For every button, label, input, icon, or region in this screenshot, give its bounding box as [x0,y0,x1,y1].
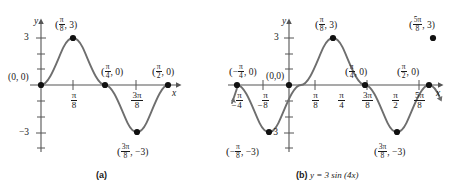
panel-a-point-origin [38,82,44,88]
panel-a-label-point-zero-pi4: (π4, 0) [101,63,123,79]
panel-b-point-min-3pi8 [394,129,400,135]
panel-b-label-point-origin: (0,0) [266,72,284,82]
panel-b-xtick-neg-pi-over-8: −π8 [254,91,272,110]
panel-b-xtick-pi-over-8: π8 [308,91,323,110]
panel-a-point-zero-pi2 [165,82,171,88]
panel-a-point-min [134,129,140,135]
panel-a-y-axis-label: y [34,17,38,27]
panel-b-ytick-3: 3 [274,33,279,43]
panel-b-caption: (b) y = 3 sin (4x) [296,170,359,180]
panel-a-xtick-3pi-over-8: 3π8 [127,91,147,110]
panel-b-label-point-zero-neg-pi4: (−π4, 0) [229,63,257,79]
panel-b-xtick-3pi-over-8: 3π8 [358,91,377,110]
panel-a-ytick-neg3: −3 [19,128,29,138]
panel-a-xtick-pi-over-8: π8 [66,91,82,110]
panel-b-label-point-max-pi8: (π8, 3) [315,16,337,32]
panel-b-axes [228,22,440,152]
panel-a-point-zero-pi4 [102,82,108,88]
panel-b-label-point-min-neg-pi8: (−π8, −3) [226,143,259,159]
panel-b-point-zero-neg-pi4 [234,82,240,88]
panel-b-point-origin [286,82,292,88]
panel-b-xtick-5pi-over-8: 5π8 [410,91,429,110]
panel-a-caption: (a) [96,170,107,180]
panel-b-point-max-pi8 [330,35,336,41]
panel-a-point-max [70,35,76,41]
panel-b-ytick-neg3: −3 [268,128,278,138]
panel-b-label-point-max-5pi8: (5π8, 3) [409,16,435,32]
panel-b-point-max-5pi8 [430,35,436,41]
panel-b-xtick-pi-over-4: π4 [334,91,349,110]
panel-a-label-point-min: (3π8, −3) [117,143,148,159]
panel-a-label-point-origin: (0, 0) [8,73,29,83]
panel-a-label-point-zero-pi2: (π2, 0) [152,63,174,79]
panel-b-label-point-min-3pi8: (3π8, −3) [374,143,405,159]
panel-b-y-axis-label: y [282,17,286,27]
panel-b-label-point-zero-pi4: (π4, 0) [345,63,367,79]
panel-b-x-axis-label: x [436,89,440,99]
panel-b-point-zero-pi2 [426,82,432,88]
panel-b-point-zero-pi4 [362,82,368,88]
figure-container: y x 3 −3 π8 3π8 (0, 0) (π8, 3) (π4, 0) (… [0,0,452,188]
panel-b-label-point-zero-pi2: (π2, 0) [397,63,419,79]
panel-b-xtick-neg-pi-over-4: −π4 [228,91,246,110]
panel-a-label-point-max: (π8, 3) [55,16,77,32]
panel-b-xtick-pi-over-2: π2 [388,91,403,110]
panel-a-ytick-3: 3 [24,33,29,43]
panel-a-x-axis-label: x [172,89,176,99]
